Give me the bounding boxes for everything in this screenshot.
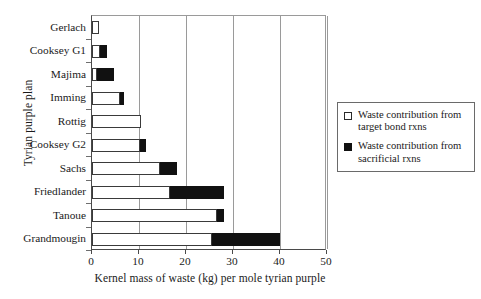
x-axis-title: Kernel mass of waste (kg) per mole tyria… — [0, 272, 420, 284]
bar-segment-target-bond-rxns — [92, 233, 212, 246]
x-tick-mark — [185, 250, 186, 254]
x-tick-label: 0 — [76, 255, 106, 267]
category-label: Gerlach — [14, 21, 86, 33]
y-tick-mark — [86, 180, 91, 181]
category-label: Grandmougin — [14, 232, 86, 244]
x-tick-label: 20 — [170, 255, 200, 267]
bar-segment-sacrificial-rxns — [170, 186, 224, 199]
bar-segment-sacrificial-rxns — [160, 162, 176, 175]
legend-label-line2: sacrificial rxns — [358, 153, 421, 164]
bar-segment-target-bond-rxns — [92, 162, 160, 175]
category-label: Cooksey G1 — [14, 44, 86, 56]
category-label: Sachs — [14, 162, 86, 174]
bar-segment-target-bond-rxns — [92, 45, 100, 58]
legend-label-line2: target bond rxns — [358, 121, 427, 132]
x-tick-label: 10 — [123, 255, 153, 267]
gridline — [233, 16, 234, 249]
bar-segment-target-bond-rxns — [92, 21, 99, 34]
category-label: Cooksey G2 — [14, 138, 86, 150]
open-square-icon — [344, 112, 352, 120]
gridline — [327, 16, 328, 249]
legend-entry-sacrificial-rxns: Waste contribution from sacrificial rxns — [344, 140, 469, 164]
x-tick-mark — [326, 250, 327, 254]
x-tick-mark — [91, 250, 92, 254]
gridline — [280, 16, 281, 249]
plot-area — [91, 15, 326, 250]
y-tick-mark — [86, 203, 91, 204]
legend-label-line1: Waste contribution from — [358, 140, 461, 151]
bar-segment-sacrificial-rxns — [140, 139, 146, 152]
bar-segment-target-bond-rxns — [92, 92, 120, 105]
x-tick-mark — [232, 250, 233, 254]
bar-segment-sacrificial-rxns — [120, 92, 124, 105]
x-tick-label: 40 — [264, 255, 294, 267]
bar-segment-target-bond-rxns — [92, 209, 217, 222]
x-tick-mark — [138, 250, 139, 254]
y-tick-mark — [86, 156, 91, 157]
x-tick-mark — [279, 250, 280, 254]
category-label: Majima — [14, 68, 86, 80]
y-tick-mark — [86, 133, 91, 134]
y-tick-mark — [86, 62, 91, 63]
y-tick-mark — [86, 227, 91, 228]
filled-square-icon — [344, 143, 352, 151]
category-axis-labels: GerlachCooksey G1MajimaImmingRottigCooks… — [14, 15, 86, 250]
x-tick-label: 30 — [217, 255, 247, 267]
category-label: Friedlander — [14, 185, 86, 197]
bar-segment-sacrificial-rxns — [100, 45, 107, 58]
category-label: Imming — [14, 91, 86, 103]
y-tick-mark — [86, 86, 91, 87]
category-label: Rottig — [14, 115, 86, 127]
legend-label-sacrificial-rxns: Waste contribution from sacrificial rxns — [358, 140, 461, 164]
y-tick-mark — [86, 109, 91, 110]
bar-chart-figure: Tyrian purple plan GerlachCooksey G1Maji… — [0, 0, 481, 299]
bar-segment-sacrificial-rxns — [97, 68, 114, 81]
bar-segment-target-bond-rxns — [92, 115, 141, 128]
bar-segment-sacrificial-rxns — [217, 209, 225, 222]
category-label: Tanoue — [14, 209, 86, 221]
legend-label-target-bond-rxns: Waste contribution from target bond rxns — [358, 109, 461, 133]
legend-entry-target-bond-rxns: Waste contribution from target bond rxns — [344, 109, 469, 133]
y-tick-mark — [86, 39, 91, 40]
bar-segment-target-bond-rxns — [92, 186, 170, 199]
bar-segment-sacrificial-rxns — [212, 233, 280, 246]
bar-segment-target-bond-rxns — [92, 139, 140, 152]
legend-label-line1: Waste contribution from — [358, 109, 461, 120]
x-tick-label: 50 — [311, 255, 341, 267]
chart-legend: Waste contribution from target bond rxns… — [337, 102, 475, 172]
